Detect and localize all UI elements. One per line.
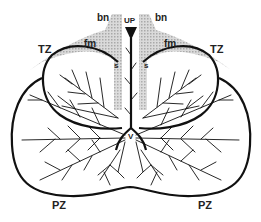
label-tz-right: TZ xyxy=(210,43,224,55)
label-s-left: s xyxy=(114,61,119,70)
left-pz-ducts xyxy=(22,92,125,185)
label-pz-right: PZ xyxy=(198,199,212,211)
label-up: UP xyxy=(124,16,136,25)
label-v: V xyxy=(128,132,134,141)
label-fm-left: fm xyxy=(84,38,96,49)
label-fm-right: fm xyxy=(164,38,176,49)
label-pz-left: PZ xyxy=(52,199,66,211)
label-tz-left: TZ xyxy=(38,43,52,55)
label-bn-left: bn xyxy=(97,12,109,23)
label-bn-right: bn xyxy=(155,12,167,23)
label-s-right: s xyxy=(144,61,149,70)
prostate-zone-diagram: bn bn UP TZ TZ fm fm s s V PZ PZ xyxy=(0,0,261,222)
right-pz-ducts xyxy=(136,92,239,185)
